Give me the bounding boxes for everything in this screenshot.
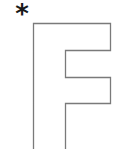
letter-tracing-canvas: * <box>0 0 117 149</box>
letter-f-outline <box>0 0 117 149</box>
letter-f-outline-path <box>34 24 111 150</box>
